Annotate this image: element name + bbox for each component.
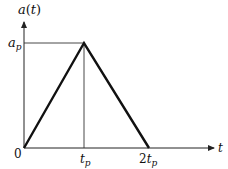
- y-tick-label-ap: ap: [8, 35, 22, 52]
- triangular-pulse-diagram: a(t) ap 0 tp 2tp t: [0, 0, 228, 169]
- x-tick-label-2tp: 2tp: [139, 152, 157, 168]
- y-axis-label: a(t): [18, 2, 41, 17]
- x-tick-label-tp: tp: [80, 152, 91, 168]
- origin-label: 0: [14, 147, 22, 161]
- pulse-curve: [24, 43, 149, 148]
- x-axis-label: t: [218, 141, 223, 155]
